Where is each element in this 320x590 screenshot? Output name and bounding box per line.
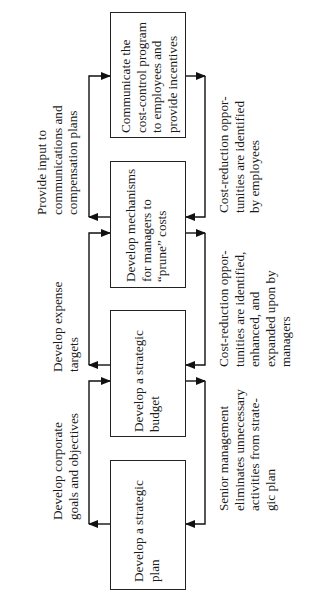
step-label-strategic-budget: Develop a strategic budget — [131, 330, 162, 432]
top-label-corporate-goals: Develop corporate goals and objectives — [50, 413, 81, 520]
top-label-expense-targets: Develop expense targets — [50, 282, 81, 372]
top-label-provide-input: Provide input to communications and comp… — [34, 105, 81, 215]
bottom-label-employee-opportunities: Cost-reduction oppor- tunities are ident… — [216, 96, 263, 213]
step-label-communicate: Communicate the cost-control program to … — [118, 22, 180, 133]
bottom-label-managers-opportunities: Cost-reduction oppor- tunities are ident… — [216, 250, 294, 367]
bottom-label-senior-management: Senior management eliminates unnecessary… — [216, 389, 278, 511]
step-label-prune-mechanisms: Develop mechanisms for managers to “prun… — [123, 169, 170, 282]
step-label-strategic-plan: Develop a strategic plan — [131, 480, 162, 582]
